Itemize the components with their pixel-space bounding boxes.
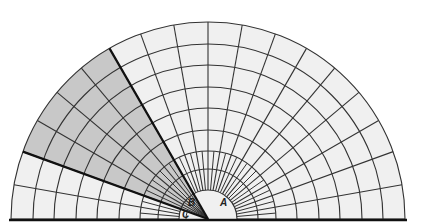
label-c: C	[182, 209, 190, 220]
label-b: B	[188, 197, 195, 208]
label-a: A	[219, 197, 227, 208]
polar-grid-diagram: A B C	[0, 0, 422, 223]
